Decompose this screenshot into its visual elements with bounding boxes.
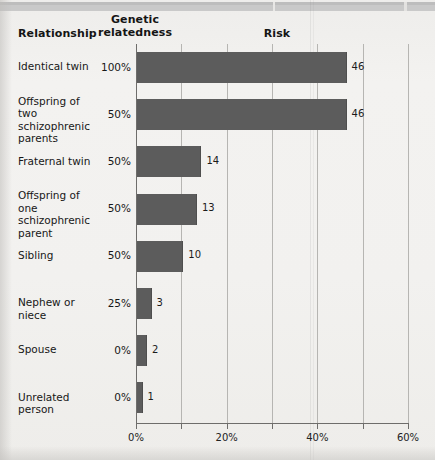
scanned-page: Relationship Genetic relatedness Risk Id… <box>0 0 435 460</box>
row-genetic-relatedness: 50% <box>101 108 131 120</box>
chart-gridline <box>408 44 409 423</box>
chart-x-tick <box>408 423 409 429</box>
column-header-genetic-relatedness: Genetic relatedness <box>93 13 177 39</box>
page-top-band-highlight <box>0 2 435 5</box>
row-label-line: Offspring of two <box>18 95 102 120</box>
row-label-relationship: Unrelated person <box>18 391 102 416</box>
chart-bar-value-label: 46 <box>352 61 365 72</box>
chart-bar-value-label: 3 <box>157 297 163 308</box>
chart-bar <box>137 288 152 319</box>
chart-bar-value-label: 10 <box>188 249 201 260</box>
row-label-relationship: Nephew or niece <box>18 296 102 321</box>
row-label-relationship: Spouse <box>18 343 102 356</box>
chart-bar <box>137 99 347 130</box>
chart-bar <box>137 382 143 413</box>
chart-bar-value-label: 46 <box>352 108 365 119</box>
chart-x-tick-label: 0% <box>128 432 144 443</box>
row-genetic-relatedness: 50% <box>101 249 131 261</box>
chart-bar <box>137 52 347 83</box>
scan-edge-shadow-left <box>0 0 12 460</box>
chart-x-tick <box>317 423 318 429</box>
row-genetic-relatedness: 25% <box>101 297 131 309</box>
chart-x-tick <box>227 423 228 429</box>
chart-x-tick-label: 40% <box>306 432 328 443</box>
column-header-genetic-line2: relatedness <box>93 26 177 39</box>
chart-bar-value-label: 14 <box>206 155 219 166</box>
row-label-line: Nephew or niece <box>18 296 102 321</box>
chart-x-tick <box>272 423 273 429</box>
row-label-relationship: Identical twin <box>18 60 102 73</box>
row-label-line: parents <box>18 132 102 145</box>
chart-x-tick <box>136 423 137 429</box>
row-label-line: Unrelated person <box>18 391 102 416</box>
row-label-line: Fraternal twin <box>18 155 102 168</box>
chart-gridline <box>363 44 364 423</box>
row-genetic-relatedness: 50% <box>101 202 131 214</box>
row-genetic-relatedness: 0% <box>101 391 131 403</box>
chart-bar-value-label: 2 <box>152 344 158 355</box>
row-label-line: Spouse <box>18 343 102 356</box>
row-genetic-relatedness: 0% <box>101 344 131 356</box>
row-label-line: parent <box>18 227 102 240</box>
chart-x-tick-label: 20% <box>216 432 238 443</box>
chart-bar <box>137 241 183 272</box>
row-label-line: Identical twin <box>18 60 102 73</box>
row-label-line: schizophrenic <box>18 120 102 133</box>
column-header-relationship: Relationship <box>18 27 97 40</box>
chart-bar-value-label: 1 <box>148 391 154 402</box>
row-label-line: Sibling <box>18 249 102 262</box>
row-label-line: schizophrenic <box>18 214 102 227</box>
page-top-band-gap <box>273 2 275 11</box>
row-genetic-relatedness: 100% <box>101 61 131 73</box>
row-label-relationship: Sibling <box>18 249 102 262</box>
column-header-genetic-line1: Genetic <box>93 13 177 26</box>
column-header-risk: Risk <box>232 27 322 40</box>
page-top-band-gap-right <box>404 2 407 11</box>
chart-bar-value-label: 13 <box>202 202 215 213</box>
row-label-relationship: Offspring of oneschizophrenicparent <box>18 189 102 239</box>
row-label-relationship: Offspring of twoschizophrenicparents <box>18 95 102 145</box>
chart-bar <box>137 146 201 177</box>
chart-x-tick <box>363 423 364 429</box>
chart-bar <box>137 194 197 225</box>
row-label-relationship: Fraternal twin <box>18 155 102 168</box>
chart-x-tick <box>181 423 182 429</box>
chart-bar <box>137 335 147 366</box>
row-genetic-relatedness: 50% <box>101 155 131 167</box>
chart-x-tick-label: 60% <box>397 432 419 443</box>
row-label-line: Offspring of one <box>18 189 102 214</box>
scan-edge-shadow-bottom <box>0 446 435 460</box>
